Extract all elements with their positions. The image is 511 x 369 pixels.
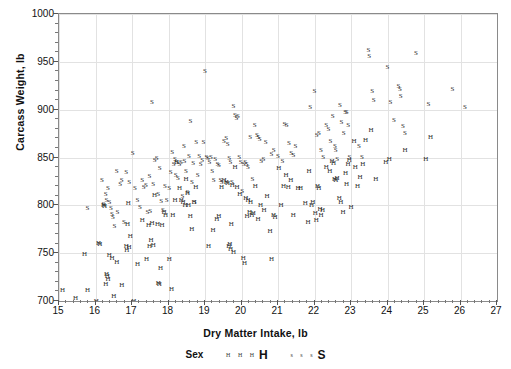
data-point-h: H <box>169 285 174 292</box>
data-point-s: S <box>399 93 403 100</box>
x-tick-label: 17 <box>111 305 151 316</box>
x-tick-mark <box>460 300 461 305</box>
data-point-h: H <box>135 260 140 267</box>
data-point-s: S <box>122 218 126 225</box>
data-point-h: H <box>158 264 163 271</box>
y-minor-tick <box>55 99 58 100</box>
data-point-s: S <box>272 146 276 153</box>
data-point-h: H <box>188 212 193 219</box>
x-minor-tick <box>73 300 74 303</box>
data-point-s: S <box>151 181 155 188</box>
data-point-s: S <box>340 119 344 126</box>
data-point-s: S <box>176 174 180 181</box>
legend-label-h: H <box>259 348 268 362</box>
gridline-horizontal <box>59 301 497 302</box>
data-point-h: H <box>253 183 258 190</box>
data-point-s: S <box>148 172 152 179</box>
x-minor-tick <box>372 300 373 303</box>
y-tick-label: 900 <box>0 103 54 114</box>
data-point-s: S <box>158 165 162 172</box>
data-point-h: H <box>276 165 281 172</box>
x-tick-mark <box>496 300 497 305</box>
data-point-s: S <box>414 50 418 57</box>
y-tick-mark <box>53 61 58 62</box>
legend-entry-h[interactable]: H H HH <box>226 348 268 362</box>
data-point-h: H <box>335 174 340 181</box>
y-minor-tick <box>55 185 58 186</box>
data-point-h: H <box>320 207 325 214</box>
data-point-h: H <box>82 251 87 258</box>
data-point-s: S <box>210 167 214 174</box>
data-point-s: S <box>131 149 135 156</box>
data-point-h: H <box>303 200 308 207</box>
y-minor-tick <box>55 137 58 138</box>
data-point-h: H <box>262 207 267 214</box>
x-minor-tick <box>489 300 490 303</box>
data-point-s: S <box>193 198 197 205</box>
data-point-s: S <box>403 129 407 136</box>
x-minor-tick <box>146 300 147 303</box>
data-point-h: H <box>140 216 145 223</box>
data-point-s: S <box>253 121 257 128</box>
y-minor-tick <box>55 195 58 196</box>
data-point-s: S <box>264 139 268 146</box>
data-point-h: H <box>353 164 358 171</box>
y-tick-label: 950 <box>0 55 54 66</box>
data-point-s: S <box>367 53 371 60</box>
legend-label-s: S <box>318 348 326 362</box>
data-point-s: S <box>113 223 117 230</box>
x-tick-label: 24 <box>367 305 407 316</box>
x-tick-mark <box>58 300 59 305</box>
data-point-s: S <box>138 204 142 211</box>
x-minor-tick <box>255 300 256 303</box>
data-point-s: S <box>163 183 167 190</box>
x-minor-tick <box>175 300 176 303</box>
data-point-s: S <box>345 108 349 115</box>
data-point-s: S <box>196 171 200 178</box>
x-tick-mark <box>168 300 169 305</box>
y-tick-label: 700 <box>0 295 54 306</box>
data-point-s: S <box>190 179 194 186</box>
data-point-s: S <box>230 179 234 186</box>
data-point-h: H <box>183 175 188 182</box>
data-point-s: S <box>291 151 295 158</box>
data-point-s: S <box>212 176 216 183</box>
y-minor-tick <box>55 176 58 177</box>
y-minor-tick <box>55 262 58 263</box>
data-point-s: S <box>100 177 104 184</box>
x-minor-tick <box>219 300 220 303</box>
data-point-h: H <box>291 211 296 218</box>
x-minor-tick <box>80 300 81 303</box>
x-minor-tick <box>328 300 329 303</box>
data-point-h: H <box>144 255 149 262</box>
data-point-s: S <box>342 129 346 136</box>
x-tick-mark <box>241 300 242 305</box>
gridline-horizontal <box>59 62 497 63</box>
x-minor-tick <box>481 300 482 303</box>
data-point-s: S <box>144 182 148 189</box>
x-minor-tick <box>65 300 66 303</box>
x-minor-tick <box>284 300 285 303</box>
data-point-h: H <box>402 146 407 153</box>
data-point-h: H <box>150 219 155 226</box>
data-point-s: S <box>236 113 240 120</box>
x-minor-tick <box>189 300 190 303</box>
data-point-s: S <box>321 153 325 160</box>
x-minor-tick <box>430 300 431 303</box>
data-point-s: S <box>182 143 186 150</box>
x-minor-tick <box>408 300 409 303</box>
x-minor-tick <box>467 300 468 303</box>
x-minor-tick <box>357 300 358 303</box>
gridline-horizontal <box>59 14 497 15</box>
data-point-s: S <box>335 156 339 163</box>
data-point-s: S <box>120 176 124 183</box>
data-point-h: H <box>128 232 133 239</box>
y-tick-label: 850 <box>0 151 54 162</box>
data-point-s: S <box>169 168 173 175</box>
data-point-h: H <box>273 213 278 220</box>
x-minor-tick <box>335 300 336 303</box>
data-point-s: S <box>451 85 455 92</box>
gridline-vertical <box>497 14 498 301</box>
data-point-s: S <box>183 158 187 165</box>
legend-entry-s[interactable]: s s sS <box>291 348 326 362</box>
